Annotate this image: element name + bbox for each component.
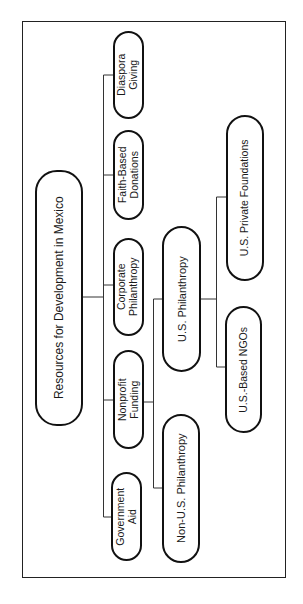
- node-nonprofit-funding-label: Nonprofit Funding: [117, 378, 141, 421]
- root-node: Resources for Development in Mexico: [35, 170, 83, 426]
- node-us-private-foundations-label: U.S. Private Foundations: [239, 140, 251, 257]
- node-us-based-ngos: U.S.-Based NGOs: [225, 306, 262, 433]
- node-faith-based-donations: Faith-Based Donations: [113, 130, 144, 220]
- root-node-label: Resources for Development in Mexico: [52, 197, 65, 400]
- node-non-us-philanthropy-label: Non-U.S. Philanthropy: [175, 434, 187, 543]
- node-diaspora-giving: Diaspora Giving: [113, 31, 144, 119]
- node-diaspora-giving-label: Diaspora Giving: [117, 54, 141, 96]
- node-faith-based-donations-label: Faith-Based Donations: [117, 147, 141, 204]
- node-us-based-ngos-label: U.S.-Based NGOs: [238, 327, 250, 413]
- node-us-philanthropy: U.S. Philanthropy: [162, 226, 201, 372]
- node-us-private-foundations: U.S. Private Foundations: [226, 115, 264, 281]
- node-nonprofit-funding: Nonprofit Funding: [113, 350, 144, 449]
- node-government-aid: Government Aid: [111, 472, 142, 561]
- node-us-philanthropy-label: U.S. Philanthropy: [175, 256, 187, 342]
- node-non-us-philanthropy: Non-U.S. Philanthropy: [162, 414, 200, 563]
- node-government-aid-label: Government Aid: [115, 488, 139, 546]
- node-corporate-philanthropy-label: Corporate Philanthropy: [117, 258, 141, 316]
- node-corporate-philanthropy: Corporate Philanthropy: [113, 238, 144, 336]
